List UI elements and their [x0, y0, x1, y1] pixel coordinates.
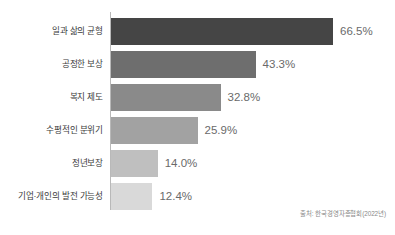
- category-label: 기업·개인의 발전 가능성: [0, 192, 103, 201]
- bar-group: 32.8%: [111, 84, 260, 111]
- bar[interactable]: [111, 84, 221, 111]
- bar-group: 43.3%: [111, 51, 295, 78]
- chart-row: 기업·개인의 발전 가능성 12.4%: [0, 183, 395, 210]
- bar-value-label: 32.8%: [228, 92, 261, 104]
- bar-value-label: 25.9%: [205, 125, 238, 137]
- bar[interactable]: [111, 117, 198, 144]
- chart-row: 정년보장 14.0%: [0, 150, 395, 177]
- chart-row: 공정한 보상 43.3%: [0, 51, 395, 78]
- chart-row: 일과 삶의 균형 66.5%: [0, 18, 395, 45]
- bar-value-label: 14.0%: [165, 158, 198, 170]
- chart-row: 복지 제도 32.8%: [0, 84, 395, 111]
- bar-group: 66.5%: [111, 18, 373, 45]
- bar[interactable]: [111, 18, 333, 45]
- bar-group: 14.0%: [111, 150, 197, 177]
- category-label: 복지 제도: [0, 93, 103, 102]
- bar-group: 25.9%: [111, 117, 237, 144]
- source-attribution: 출처: 한국경영자총협회(2022년): [300, 209, 386, 218]
- bar[interactable]: [111, 51, 256, 78]
- category-label: 수평적인 분위기: [0, 126, 103, 135]
- bar[interactable]: [111, 183, 152, 210]
- bar-value-label: 66.5%: [340, 26, 373, 38]
- bar-chart: 일과 삶의 균형 66.5% 공정한 보상 43.3% 복지 제도 32.8% …: [0, 0, 395, 235]
- plot-area: 일과 삶의 균형 66.5% 공정한 보상 43.3% 복지 제도 32.8% …: [0, 0, 395, 235]
- bar[interactable]: [111, 150, 158, 177]
- bar-value-label: 43.3%: [263, 59, 296, 71]
- bar-group: 12.4%: [111, 183, 192, 210]
- bar-value-label: 12.4%: [159, 191, 192, 203]
- category-label: 정년보장: [0, 159, 103, 168]
- category-label: 공정한 보상: [0, 60, 103, 69]
- chart-row: 수평적인 분위기 25.9%: [0, 117, 395, 144]
- category-label: 일과 삶의 균형: [0, 27, 103, 36]
